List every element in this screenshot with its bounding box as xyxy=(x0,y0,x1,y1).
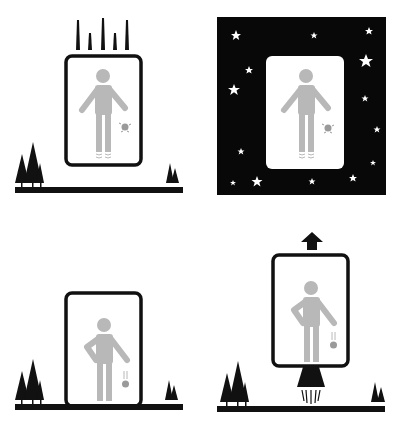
ground xyxy=(217,406,385,412)
panel-free-fall xyxy=(0,0,200,215)
panel-rocket xyxy=(200,215,404,431)
panel-space xyxy=(200,0,404,215)
rocket-thruster-icon xyxy=(297,367,325,387)
panel-on-ground xyxy=(0,215,200,431)
speed-lines-icon xyxy=(76,18,129,50)
ground xyxy=(15,187,183,193)
ground xyxy=(15,404,183,410)
up-arrow-icon xyxy=(301,232,323,250)
exhaust-lines-icon xyxy=(302,390,320,404)
